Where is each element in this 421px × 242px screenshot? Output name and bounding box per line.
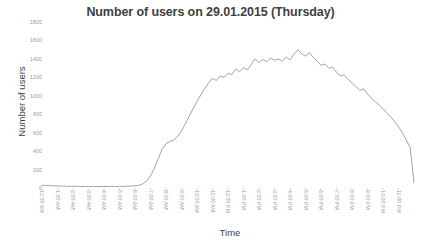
chart-container: Number of users on 29.01.2015 (Thursday)… [0,0,421,242]
users-line-series [42,50,414,187]
x-axis-tick-marks [42,188,399,191]
plot-area [0,0,421,242]
